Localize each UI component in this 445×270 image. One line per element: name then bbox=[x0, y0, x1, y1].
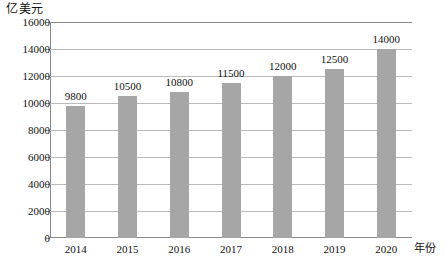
bar bbox=[377, 49, 396, 238]
bar bbox=[325, 69, 344, 238]
bar bbox=[66, 106, 85, 238]
y-axis-tick-label: 8000 bbox=[6, 125, 50, 136]
bar-value-label: 9800 bbox=[41, 91, 111, 102]
bar-value-label: 14000 bbox=[351, 34, 421, 45]
gridline bbox=[50, 22, 412, 23]
bar bbox=[222, 83, 241, 238]
bar bbox=[118, 96, 137, 238]
y-axis-title: 亿美元 bbox=[6, 2, 44, 16]
bar-chart: 亿美元 020004000600080001000012000140001600… bbox=[0, 0, 445, 270]
y-axis-tick-label: 14000 bbox=[6, 44, 50, 55]
y-axis-tick-label: 2000 bbox=[6, 206, 50, 217]
x-axis-title: 年份 bbox=[414, 242, 436, 255]
bar-value-label: 10800 bbox=[144, 77, 214, 88]
y-axis-tick-label: 12000 bbox=[6, 71, 50, 82]
bar-value-label: 12500 bbox=[299, 54, 369, 65]
y-axis-tick-label: 16000 bbox=[6, 17, 50, 28]
y-axis-tick-label: 6000 bbox=[6, 152, 50, 163]
gridline bbox=[50, 49, 412, 50]
bar bbox=[273, 76, 292, 238]
bar bbox=[170, 92, 189, 238]
x-axis-tick-label: 2020 bbox=[351, 243, 421, 255]
y-axis-tick-label: 4000 bbox=[6, 179, 50, 190]
